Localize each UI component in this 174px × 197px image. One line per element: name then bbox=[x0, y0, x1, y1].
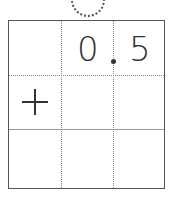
plus-icon bbox=[22, 89, 48, 115]
units-digit: 0 bbox=[77, 32, 99, 66]
addend-cell-tenths[interactable] bbox=[113, 75, 164, 129]
answer-cell-units[interactable] bbox=[61, 129, 113, 187]
place-value-grid: 0 5 bbox=[8, 20, 165, 189]
dotted-circle bbox=[71, 0, 105, 17]
tenths-digit: 5 bbox=[129, 32, 151, 66]
answer-cell-tenths[interactable] bbox=[113, 129, 164, 187]
decimal-point bbox=[111, 59, 116, 64]
addend-cell-units[interactable] bbox=[61, 75, 113, 129]
